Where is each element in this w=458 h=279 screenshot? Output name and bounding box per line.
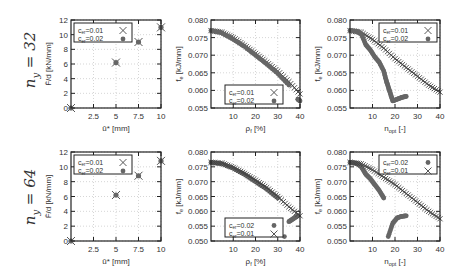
- x-tick-label: 10: [368, 112, 377, 121]
- y-axis-label: fe [kJ/mm]: [313, 46, 323, 82]
- x-tick-label: 40: [436, 245, 445, 254]
- x-tick-label: 40: [296, 245, 305, 254]
- x-tick-label: 30: [273, 112, 282, 121]
- y-tick-label: 0.070: [327, 51, 348, 60]
- x-axis-label: ρf [%]: [246, 124, 266, 134]
- y-tick-label: 0.065: [188, 193, 209, 202]
- x-tick-label: 20: [251, 112, 260, 121]
- y-tick-label: 0.060: [188, 207, 209, 216]
- x-tick-label: 10: [229, 245, 238, 254]
- y-tick-label: 0.075: [327, 163, 348, 172]
- x-tick-label: 30: [273, 245, 282, 254]
- y-axis-label: F̄/d [kN/mm]: [44, 42, 53, 86]
- x-tick-label: 10: [157, 112, 166, 121]
- y-tick-label: 0.075: [188, 163, 209, 172]
- plot-r1c1: 2.557.510024681012ū* [mm]F̄/d [kN/mm]cer…: [44, 16, 166, 133]
- dot-marker: [136, 173, 141, 178]
- y-tick-label: 10: [59, 163, 68, 172]
- y-tick-label: 12: [59, 148, 68, 157]
- y-tick-label: 0.065: [327, 193, 348, 202]
- y-tick-label: 0.075: [188, 34, 209, 43]
- x-tick-label: 20: [391, 245, 400, 254]
- x-tick-label: 7.5: [133, 245, 145, 254]
- x-tick-label: 10: [368, 245, 377, 254]
- plot-r2c2: 102030400.0500.0550.0600.0650.0700.0750.…: [174, 148, 305, 267]
- plot-r1c2: 102030400.0550.0600.0650.0700.0750.080ρf…: [174, 16, 305, 134]
- x-tick-label: 2.5: [88, 112, 100, 121]
- x-axis-label: nopt [-]: [384, 124, 405, 134]
- y-tick-label: 0.055: [188, 104, 209, 113]
- y-tick-label: 8: [64, 178, 69, 187]
- y-tick-label: 0.080: [327, 148, 348, 157]
- legend-dot-icon: [272, 99, 277, 104]
- y-tick-label: 0.080: [188, 16, 209, 25]
- y-tick-label: 10: [59, 31, 68, 40]
- legend-dot-icon: [272, 223, 277, 228]
- y-tick-label: 0.060: [327, 207, 348, 216]
- y-tick-label: 8: [64, 45, 69, 54]
- y-tick-label: 0.060: [188, 86, 209, 95]
- x-tick-label: 20: [251, 245, 260, 254]
- dot-marker: [404, 213, 409, 218]
- plot-r2c1: 2.557.510024681012ū* [mm]F̄/d [kN/mm]cer…: [44, 148, 166, 266]
- y-tick-label: 0.050: [188, 237, 209, 246]
- plot-r1c3: 102030400.0550.0600.0650.0700.0750.080no…: [313, 16, 445, 134]
- y-axis-label: fe [kJ/mm]: [174, 179, 184, 215]
- y-tick-label: 0.065: [327, 69, 348, 78]
- legend: cer=0.01cer=0.02: [225, 85, 283, 106]
- legend-dot-icon: [121, 37, 126, 42]
- y-tick-label: 0.070: [188, 51, 209, 60]
- legend: cer=0.02cer=0.01: [225, 218, 283, 239]
- y-tick-label: 2: [64, 222, 69, 231]
- legend: cer=0.01cer=0.02: [379, 23, 437, 44]
- dot-marker: [286, 83, 291, 88]
- x-tick-label: 5: [114, 112, 119, 121]
- plot-r2c3: 102030400.0500.0550.0600.0650.0700.0750.…: [313, 148, 445, 267]
- x-axis-label: ū* [mm]: [102, 124, 130, 133]
- legend: cer=0.01cer=0.02: [74, 155, 132, 176]
- x-tick-label: 5: [114, 245, 119, 254]
- y-tick-label: 4: [64, 207, 69, 216]
- dot-marker: [113, 192, 118, 197]
- y-tick-label: 0.070: [327, 178, 348, 187]
- y-tick-label: 0.055: [327, 104, 348, 113]
- y-tick-label: 0.050: [327, 237, 348, 246]
- dot-marker: [404, 94, 409, 99]
- legend-dot-icon: [121, 169, 126, 174]
- x-tick-label: 40: [296, 112, 305, 121]
- x-tick-label: 10: [157, 245, 166, 254]
- y-tick-label: 0.080: [188, 148, 209, 157]
- x-tick-label: 30: [413, 245, 422, 254]
- y-axis-label: fe [kJ/mm]: [174, 46, 184, 82]
- legend-dot-icon: [426, 37, 431, 42]
- y-axis-label: fe [kJ/mm]: [313, 179, 323, 215]
- y-tick-label: 0.055: [188, 222, 209, 231]
- x-axis-label: ū* [mm]: [102, 257, 130, 266]
- y-tick-label: 6: [64, 60, 69, 69]
- y-tick-label: 0.080: [327, 16, 348, 25]
- y-tick-label: 0.065: [188, 69, 209, 78]
- x-tick-label: 40: [436, 112, 445, 121]
- x-axis-label: nopt [-]: [384, 257, 405, 267]
- legend: cer=0.02cer=0.01: [379, 155, 437, 176]
- legend: cer=0.01cer=0.02: [74, 23, 132, 44]
- y-tick-label: 0.075: [327, 34, 348, 43]
- y-tick-label: 0.070: [188, 178, 209, 187]
- y-tick-label: 12: [59, 16, 68, 25]
- x-tick-label: 10: [229, 112, 238, 121]
- x-axis-label: ρf [%]: [246, 257, 266, 267]
- dot-marker: [136, 39, 141, 44]
- dot-marker: [113, 60, 118, 65]
- legend-dot-icon: [426, 160, 431, 165]
- x-tick-label: 2.5: [88, 245, 100, 254]
- x-tick-label: 30: [413, 112, 422, 121]
- x-tick-label: 20: [391, 112, 400, 121]
- y-tick-label: 2: [64, 89, 69, 98]
- figure-canvas: 2.557.510024681012ū* [mm]F̄/d [kN/mm]cer…: [0, 0, 458, 279]
- x-tick-label: 7.5: [133, 112, 145, 121]
- y-tick-label: 0.055: [327, 222, 348, 231]
- y-tick-label: 0.060: [327, 86, 348, 95]
- y-tick-label: 6: [64, 193, 69, 202]
- y-tick-label: 4: [64, 75, 69, 84]
- dot-marker: [381, 196, 386, 201]
